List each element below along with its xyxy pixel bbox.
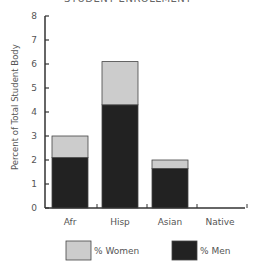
legend-label-men: % Men (200, 246, 230, 256)
bar-hisp-women (102, 62, 138, 105)
x-tick-label: Native (205, 217, 235, 227)
y-tick-label: 2 (31, 155, 37, 165)
legend-swatch-men (172, 241, 197, 260)
y-tick-label: 4 (31, 107, 37, 117)
x-tick-label: Asian (158, 217, 183, 227)
x-tick-label: Hisp (110, 217, 130, 227)
y-tick-label: 0 (31, 203, 37, 213)
y-tick-label: 1 (31, 179, 37, 189)
bar-afr-men (52, 158, 88, 208)
legend-swatch-women (66, 241, 91, 260)
bar-asian-men (152, 168, 188, 208)
y-tick-label: 5 (31, 83, 37, 93)
y-tick-label: 6 (31, 59, 37, 69)
bar-chart: 012345678AfrHispAsianNative% Women% Men (0, 0, 256, 273)
legend-label-women: % Women (94, 246, 139, 256)
y-tick-label: 7 (31, 35, 37, 45)
bar-afr-women (52, 136, 88, 158)
bar-hisp-men (102, 105, 138, 208)
x-tick-label: Afr (64, 217, 77, 227)
y-tick-label: 8 (31, 11, 37, 21)
bar-asian-women (152, 160, 188, 168)
y-tick-label: 3 (31, 131, 37, 141)
